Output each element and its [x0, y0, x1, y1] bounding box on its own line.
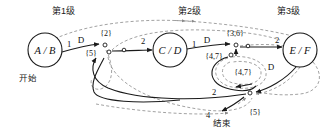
dashed-arc-long-bottom — [108, 57, 252, 111]
level-header-1: 第1级 — [52, 4, 75, 17]
place-label-ef: E / F — [290, 45, 311, 56]
transition-t3[interactable] — [234, 43, 238, 47]
edge-label-end: 4 — [206, 110, 210, 120]
end-annotation: 结束 — [213, 116, 231, 128]
place-label-cd: C / D — [159, 45, 182, 56]
transition-t2b[interactable] — [122, 48, 126, 52]
set-label-47-left: {4,7} — [205, 52, 223, 61]
edge-label-cd-d: D — [204, 35, 211, 45]
set-label-47-center: {4,7} — [234, 68, 252, 77]
place-label-ab: A / B — [35, 45, 56, 56]
arc-t5-to-end — [222, 97, 244, 111]
transition-t2[interactable] — [107, 50, 111, 54]
level-header-3: 第3级 — [277, 4, 300, 17]
edge-label-ab-weight: 1 — [67, 39, 71, 49]
edge-label-cd-out: 1 — [192, 39, 196, 49]
transition-t4[interactable] — [229, 53, 233, 57]
edge-label-cd-in: 2 — [141, 36, 145, 46]
edge-label-ef-d: D — [268, 62, 275, 72]
arc-t2-to-cd — [112, 50, 152, 51]
arc-ef-to-t5 — [256, 67, 296, 92]
diagram-svg — [0, 0, 331, 131]
set-label-5-bottom: {5} — [249, 108, 261, 117]
transition-t5[interactable] — [248, 91, 252, 95]
edge-label-ab-d: D — [78, 35, 85, 45]
set-label-36: {3,6} — [226, 29, 244, 38]
edge-label-return: 2 — [212, 87, 216, 97]
start-annotation: 开始 — [19, 71, 37, 83]
set-label-2: {2} — [100, 29, 112, 38]
level-header-2: 第2级 — [178, 4, 201, 17]
set-label-5-left: {5} — [85, 49, 97, 58]
transition-t1[interactable] — [103, 43, 107, 47]
diagram-canvas: 第1级 第2级 第3级 A / B C / D E / F 开始 结束 1 D … — [0, 0, 331, 131]
transition-t3b[interactable] — [246, 44, 250, 48]
edge-label-ef-in: 2 — [275, 35, 279, 45]
arc-inner-47-arrow — [236, 84, 252, 87]
